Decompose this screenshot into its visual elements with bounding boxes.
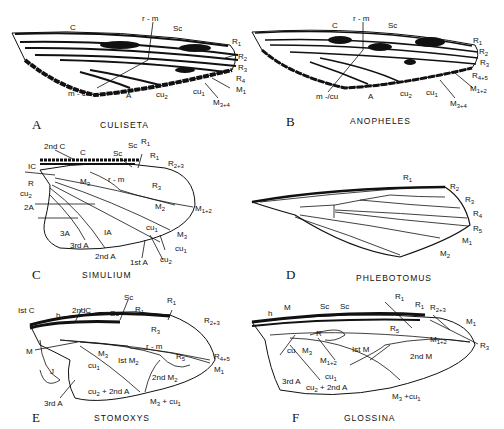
vein-label-m3-edge: M3	[177, 231, 187, 239]
vein-label-a: A	[126, 92, 131, 100]
vein-label-r2-3: R2+3	[204, 317, 220, 325]
vein-label-r1-1: R1	[395, 293, 404, 301]
vein-label-ist-c: Ist C	[18, 307, 34, 315]
vein-label-cu1: cu1	[88, 362, 100, 370]
vein-label-2nd-m2: 2nd M2	[152, 374, 178, 382]
stomoxys-wing-drawing	[0, 280, 250, 429]
vein-label-r4: R4	[473, 210, 482, 218]
vein-label-r1-1: R1	[135, 306, 144, 314]
phlebotomus-wing-drawing	[250, 130, 504, 280]
panel-c-simulium: 2nd C C Sc Sc R1 R1 R2+3 IC R r - m M3 R…	[0, 130, 250, 280]
vein-label-cu2: cu2	[156, 91, 168, 99]
vein-label-ist-m: Ist M	[352, 346, 369, 354]
panel-b-anopheles: C r - m Sc R1 R2 R3 R4+5 M1+2 m -/cu A c…	[250, 0, 504, 140]
vein-label-cu2-2nd-a: cu2 + 2nd A	[88, 388, 129, 396]
vein-label-m3: M3	[80, 178, 90, 186]
panel-letter: E	[32, 410, 40, 426]
vein-label-m1: M1	[466, 318, 476, 326]
vein-label-3rd-a: 3rd A	[44, 400, 63, 408]
simulium-wing-drawing	[0, 130, 250, 280]
vein-label-r5: R5	[390, 325, 399, 333]
vein-label-m3-cu1: M3 + cu1	[150, 398, 181, 406]
vein-label-r4-5: R4+5	[472, 72, 488, 80]
vein-label-r5: R5	[176, 353, 185, 361]
vein-label-m2: M2	[155, 203, 165, 211]
vein-label-m1-2-lower: M1+2	[320, 357, 337, 365]
vein-label-cu1-inner: cu1	[146, 224, 158, 232]
vein-label-r2: R2	[450, 183, 459, 191]
vein-label-r3: R3	[480, 59, 489, 67]
vein-label-r1-2: R1	[167, 297, 176, 305]
vein-label-r1: R1	[473, 37, 482, 45]
vein-label-cu1: cu1	[426, 89, 438, 97]
vein-label-m1-2: M1+2	[470, 85, 487, 93]
vein-label-r1: R1	[403, 174, 412, 182]
vein-label-sc-2: Sc	[340, 303, 349, 311]
vein-label-2nd-m: 2nd M	[410, 353, 432, 361]
vein-label-r1: R1	[232, 38, 241, 46]
vein-label-m: M	[284, 304, 291, 312]
vein-label-m3: M3	[302, 347, 312, 355]
vein-label-2a: 2A	[24, 204, 34, 212]
genus-name: STOMOXYS	[94, 413, 150, 423]
panel-e-stomoxys: Ist C h 2ndC Sc Sc R1 R1 R2+3 R3 r - m M…	[0, 280, 250, 429]
vein-label-2nd-c: 2nd C	[44, 143, 65, 151]
vein-label-cu2: cu2	[20, 190, 32, 198]
panel-letter: F	[292, 410, 299, 426]
vein-label-m3-4: M3+4	[450, 100, 467, 108]
vein-label-sc-1: Sc	[124, 294, 133, 302]
vein-label-r1-1: R1	[141, 138, 150, 146]
vein-label-c: C	[70, 24, 76, 32]
genus-name: GLOSSINA	[344, 413, 395, 423]
vein-label-2nd-a: 2nd A	[95, 253, 115, 261]
vein-label-cu2: cu2	[400, 90, 412, 98]
vein-label-2ndc: 2ndC	[72, 307, 91, 315]
vein-label-m2: M2	[440, 250, 450, 258]
vein-label-r: R	[28, 180, 34, 188]
vein-label-j: J	[50, 368, 54, 376]
vein-label-sc-1: Sc	[320, 303, 329, 311]
vein-label-r3: R3	[480, 342, 489, 350]
vein-label-r-m: r - m	[108, 176, 124, 184]
vein-label-c: C	[80, 149, 86, 157]
vein-label-r4-5: R4+5	[214, 353, 230, 361]
vein-label-r-m: r - m	[142, 15, 158, 23]
vein-label-r3: R3	[151, 326, 160, 334]
vein-label-r2: R2	[238, 53, 247, 61]
vein-label-r: R	[316, 330, 322, 338]
vein-label-c: C	[332, 22, 338, 30]
vein-label-3rd-a: 3rd A	[282, 378, 301, 386]
vein-label-ist-m2: Ist M2	[118, 357, 139, 365]
vein-label-r2: R2	[479, 48, 488, 56]
vein-label-cu1-edge: cu1	[175, 245, 187, 253]
vein-label-r1-2: R1	[150, 152, 159, 160]
vein-label-h: h	[56, 312, 60, 320]
vein-label-3rd-a: 3rd A	[70, 242, 89, 250]
vein-label-sc-2: Sc	[110, 310, 119, 318]
panel-letter: B	[286, 114, 295, 130]
vein-label-1a: IA	[104, 229, 112, 237]
genus-name: CULISETA	[100, 120, 149, 130]
vein-label-m3-cu1: M3 +cu1	[392, 393, 421, 401]
vein-label-r2-3: R2+3	[430, 304, 446, 312]
vein-label-m-cu: m -/cu	[316, 93, 338, 101]
vein-label-r2-3: R2+3	[168, 160, 184, 168]
vein-label-cu1: cu1	[193, 88, 205, 96]
vein-label-r5: R5	[473, 225, 482, 233]
vein-label-m: M	[26, 348, 33, 356]
genus-name: ANOPHELES	[350, 116, 411, 126]
panel-a-culiseta: C r - m Sc R1 R2 R3 R4 M1 m - cu A cu2 c…	[0, 0, 250, 140]
vein-label-cu: cu	[287, 347, 295, 355]
vein-label-h: h	[268, 310, 272, 318]
vein-label-cu2-edge: cu2	[160, 256, 172, 264]
vein-label-sc-1: Sc	[113, 150, 122, 158]
genus-name: SIMULIUM	[82, 270, 132, 280]
vein-label-m3: M3	[98, 350, 108, 358]
vein-label-r3: R3	[152, 182, 161, 190]
vein-label-m1-2-upper: M1+2	[430, 336, 447, 344]
vein-label-m1: M1	[214, 366, 224, 374]
vein-label-m3-4: M3+4	[213, 99, 230, 107]
vein-label-m1-2: M1+2	[195, 205, 212, 213]
vein-label-m1: M1	[236, 86, 246, 94]
vein-label-ic: IC	[28, 163, 36, 171]
